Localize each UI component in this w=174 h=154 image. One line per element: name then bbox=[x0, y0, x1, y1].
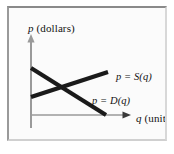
x-axis-variable: q bbox=[136, 112, 142, 124]
x-axis-units: (units) bbox=[145, 112, 167, 124]
y-axis-units: (dollars) bbox=[37, 22, 75, 34]
demand-curve-label: p = D(q) bbox=[92, 96, 130, 107]
y-axis-label: p(dollars) bbox=[28, 23, 75, 34]
y-axis-arrowhead-icon bbox=[27, 34, 34, 43]
figure-root: p(dollars) q(units) p = S(q) p = D(q) bbox=[0, 0, 174, 154]
figure-frame: p(dollars) q(units) p = S(q) p = D(q) bbox=[7, 6, 167, 141]
x-axis-label: q(units) bbox=[136, 113, 167, 124]
y-axis bbox=[27, 34, 34, 128]
y-axis-variable: p bbox=[28, 22, 34, 34]
x-axis bbox=[31, 112, 131, 119]
supply-curve-label: p = S(q) bbox=[116, 72, 152, 83]
x-axis-arrowhead-icon bbox=[123, 112, 132, 119]
